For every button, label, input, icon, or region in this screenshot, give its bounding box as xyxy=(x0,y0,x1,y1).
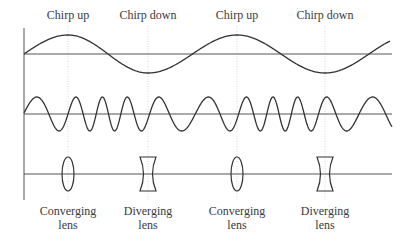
lens-type-label: Diverginglens xyxy=(124,204,172,232)
lens-label-line1: Diverging xyxy=(301,204,349,218)
chirp-direction-label: Chirp down xyxy=(120,8,177,22)
lens-label-line2: lens xyxy=(124,218,172,232)
chirp-direction-label: Chirp down xyxy=(297,8,354,22)
lens-type-label: Converginglens xyxy=(209,204,265,232)
lens-label-line2: lens xyxy=(40,218,96,232)
lens-label-line1: Converging xyxy=(40,204,96,218)
lens-label-line2: lens xyxy=(209,218,265,232)
lens-type-label: Converginglens xyxy=(40,204,96,232)
lens-label-line1: Diverging xyxy=(124,204,172,218)
lens-label-line1: Converging xyxy=(209,204,265,218)
chirp-direction-label: Chirp up xyxy=(216,8,258,22)
lens-label-line2: lens xyxy=(301,218,349,232)
chirp-lens-diagram xyxy=(0,0,416,238)
lens-type-label: Diverginglens xyxy=(301,204,349,232)
chirp-direction-label: Chirp up xyxy=(47,8,89,22)
